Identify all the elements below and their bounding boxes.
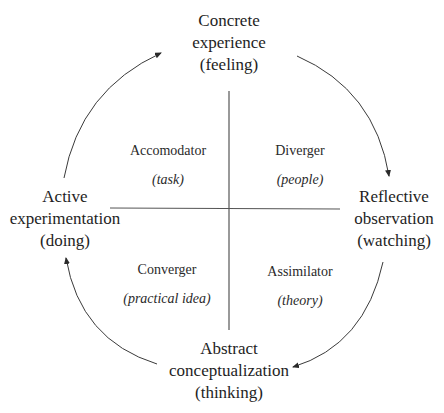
node-line: Reflective [334, 186, 444, 208]
quadrant-sub: (practical idea) [112, 290, 222, 308]
node-line: Active [0, 186, 130, 208]
node-line: experience [164, 32, 294, 54]
node-line: (watching) [334, 230, 444, 252]
quadrant-sub: (people) [250, 171, 350, 189]
quadrant-name: Assimilator [250, 263, 350, 281]
quadrant-sub: (task) [118, 171, 218, 189]
quadrant-sub: (theory) [250, 292, 350, 310]
quadrant-name: Diverger [250, 142, 350, 160]
node-line: (doing) [0, 230, 130, 252]
node-line: Concrete [164, 10, 294, 32]
node-line: conceptualization [154, 360, 304, 382]
quadrant-converger: Converger (practical idea) [112, 261, 222, 308]
node-line: (feeling) [164, 54, 294, 76]
node-line: observation [334, 208, 444, 230]
quadrant-name: Accomodator [118, 142, 218, 160]
quadrant-diverger: Diverger (people) [250, 142, 350, 189]
quadrant-assimilator: Assimilator (theory) [250, 263, 350, 310]
quadrant-accomodator: Accomodator (task) [118, 142, 218, 189]
node-concrete-experience: Concrete experience (feeling) [164, 10, 294, 76]
node-reflective-observation: Reflective observation (watching) [334, 186, 444, 252]
node-line: Abstract [154, 338, 304, 360]
node-active-experimentation: Active experimentation (doing) [0, 186, 130, 252]
node-line: experimentation [0, 208, 130, 230]
node-line: (thinking) [154, 382, 304, 404]
quadrant-name: Converger [112, 261, 222, 279]
horizontal-axis-line [110, 208, 340, 209]
node-abstract-conceptualization: Abstract conceptualization (thinking) [154, 338, 304, 404]
